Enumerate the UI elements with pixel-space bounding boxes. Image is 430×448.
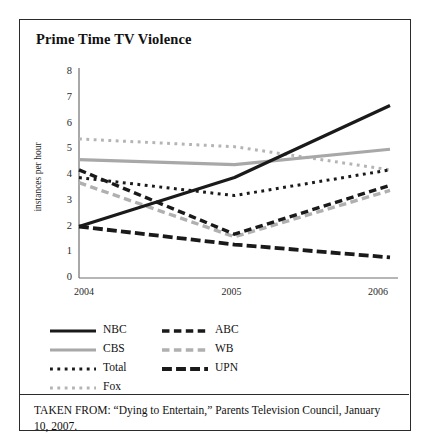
legend-item-label: ABC [215,323,239,335]
legend-item-label: UPN [215,361,238,373]
legend-swatch-icon [162,344,208,356]
figure-caption: TAKEN FROM: “Dying to Entertain,” Parent… [34,403,394,434]
chart-plot-area: instances per hour 012345678 20042005200… [20,64,409,309]
legend-column-left: NBCCBSTotalFox [50,320,127,396]
legend-item-nbc[interactable]: NBC [50,320,127,338]
series-line-upn [79,227,390,258]
line-chart-svg [20,64,409,309]
legend-swatch-icon [162,363,208,375]
legend-item-total[interactable]: Total [50,358,127,376]
legend-swatch-icon [50,325,96,337]
legend-item-label: NBC [103,323,127,335]
legend-item-fox[interactable]: Fox [50,377,127,395]
dashed-black-line-swatch [162,323,208,335]
legend-item-label: WB [215,342,234,354]
legend-item-wb[interactable]: WB [162,339,239,357]
caption-divider [20,394,409,395]
solid-gray-line-swatch [50,342,96,354]
legend-item-label: CBS [103,342,125,354]
long-dashed-black-line-swatch [162,361,208,373]
dashed-gray-line-swatch [162,342,208,354]
dotted-gray-line-swatch [50,380,96,392]
series-line-abc [79,170,390,234]
legend-item-abc[interactable]: ABC [162,320,239,338]
legend-swatch-icon [50,344,96,356]
chart-legend: NBCCBSTotalFox ABCWBUPN [50,320,390,390]
legend-item-cbs[interactable]: CBS [50,339,127,357]
series-line-total [79,170,390,196]
dotted-black-line-swatch [50,361,96,373]
figure-page: Prime Time TV Violence instances per hou… [0,0,430,448]
legend-swatch-icon [50,382,96,394]
legend-column-right: ABCWBUPN [162,320,239,377]
legend-item-upn[interactable]: UPN [162,358,239,376]
legend-item-label: Fox [103,380,121,392]
legend-item-label: Total [103,361,126,373]
figure-container: Prime Time TV Violence instances per hou… [19,19,411,431]
page-title: Prime Time TV Violence [36,31,192,48]
legend-swatch-icon [162,325,208,337]
solid-black-line-swatch [50,323,96,335]
legend-swatch-icon [50,363,96,375]
